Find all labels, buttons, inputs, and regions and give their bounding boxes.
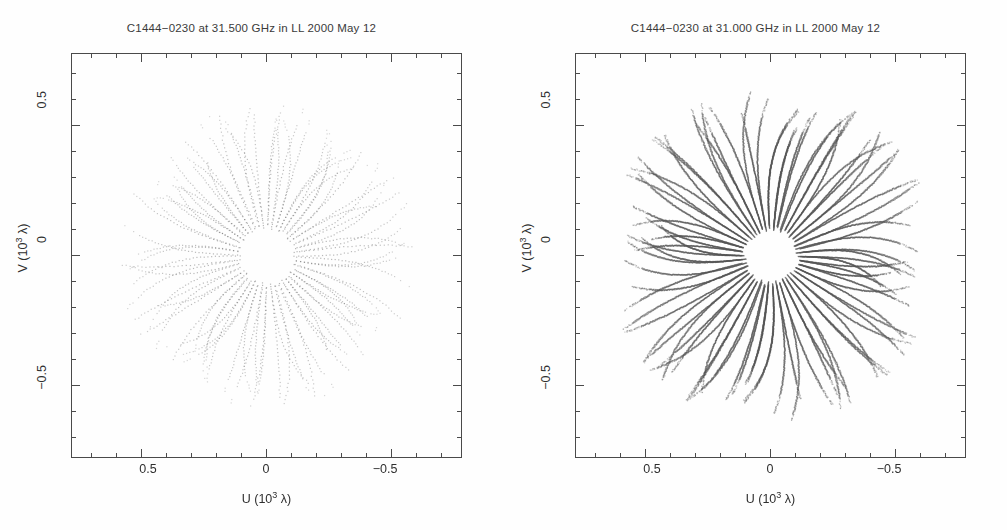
y-tick-mark [961,307,966,308]
y-tick-mark [457,437,462,438]
x-tick-mark [441,53,442,58]
x-tick-mark [216,453,217,458]
y-tick-mark [575,281,580,282]
uv-coverage-figure: C1444−0230 at 31.500 GHz in LL 2000 May … [0,0,1007,530]
y-tick-mark [71,229,76,230]
x-tick-mark [341,53,342,58]
x-tick-mark [266,449,267,458]
y-tick-mark [575,255,584,256]
y-axis-title-suffix: λ) [16,224,30,238]
x-tick-mark [645,53,646,62]
y-tick-mark [961,229,966,230]
y-tick-mark [457,307,462,308]
x-tick-mark [116,53,117,58]
x-tick-mark [720,453,721,458]
y-tick-mark [575,359,580,360]
y-tick-mark [457,229,462,230]
x-tick-mark [141,53,142,62]
y-tick-mark [961,151,966,152]
plot-title-left: C1444−0230 at 31.500 GHz in LL 2000 May … [0,22,503,34]
x-tick-mark [341,453,342,458]
x-tick-label-1: 0 [263,462,270,476]
x-tick-mark [745,53,746,58]
y-axis-title-left: V (103 λ) [14,188,30,308]
x-tick-mark [191,53,192,58]
y-tick-mark [457,333,462,334]
x-tick-mark [670,53,671,58]
y-tick-mark [575,437,580,438]
plot-title-right: C1444−0230 at 31.000 GHz in LL 2000 May … [504,22,1007,34]
x-tick-mark [91,53,92,58]
y-tick-mark [71,151,76,152]
x-tick-mark [595,453,596,458]
x-tick-mark [620,453,621,458]
x-tick-mark [695,453,696,458]
y-tick-mark [71,281,76,282]
x-tick-label-0: 0.5 [643,462,660,476]
y-axis-title-prefix: V (10 [520,243,534,273]
x-axis-title-suffix: λ) [781,492,795,506]
x-tick-mark [845,453,846,458]
x-tick-mark [166,53,167,58]
x-tick-mark [895,449,896,458]
x-tick-mark [945,453,946,458]
x-tick-mark [116,453,117,458]
x-tick-mark [745,453,746,458]
x-tick-mark [316,453,317,458]
y-tick-mark [457,99,462,100]
y-tick-mark [457,281,462,282]
y-tick-mark [71,359,76,360]
x-tick-label-0: 0.5 [139,462,156,476]
x-tick-mark [820,453,821,458]
x-tick-mark [391,53,392,62]
y-axis-title-prefix: V (10 [16,243,30,273]
y-tick-mark [961,99,966,100]
y-tick-mark [575,73,580,74]
x-tick-mark [845,53,846,58]
y-tick-mark [71,385,80,386]
plot-panel-right: C1444−0230 at 31.000 GHz in LL 2000 May … [504,0,1007,530]
x-tick-mark [216,53,217,58]
x-tick-mark [241,453,242,458]
y-tick-mark [457,203,462,204]
x-tick-mark [820,53,821,58]
x-tick-mark [670,453,671,458]
y-tick-mark [575,151,580,152]
x-tick-label-1: 0 [767,462,774,476]
y-tick-mark [575,229,580,230]
y-tick-mark [71,437,76,438]
plot-frame-right [575,53,966,458]
x-tick-mark [366,453,367,458]
y-tick-mark [453,385,462,386]
y-tick-mark [575,99,580,100]
x-axis-title-prefix: U (10 [242,492,273,506]
y-tick-mark [457,359,462,360]
x-tick-mark [645,449,646,458]
x-tick-mark [291,53,292,58]
y-tick-mark [575,203,580,204]
x-tick-mark [191,453,192,458]
y-axis-title-exponent: 3 [14,238,24,243]
y-tick-label-2: −0.5 [35,365,49,413]
x-tick-mark [795,453,796,458]
x-tick-label-2: −0.5 [877,462,902,476]
x-tick-mark [416,453,417,458]
x-axis-title-left: U (103 λ) [71,490,462,506]
x-tick-mark [166,453,167,458]
y-tick-label-0: 0.5 [539,91,553,131]
y-tick-mark [71,125,80,126]
x-tick-mark [620,53,621,58]
y-tick-mark [457,177,462,178]
y-tick-mark [961,411,966,412]
x-tick-mark [416,53,417,58]
y-tick-label-0: 0.5 [35,91,49,131]
y-tick-mark [961,203,966,204]
x-tick-mark [770,449,771,458]
y-tick-label-1: 0 [539,236,553,276]
x-tick-mark [920,453,921,458]
x-tick-mark [720,53,721,58]
x-tick-mark [391,449,392,458]
y-tick-mark [957,385,966,386]
y-tick-mark [957,125,966,126]
y-tick-mark [575,333,580,334]
